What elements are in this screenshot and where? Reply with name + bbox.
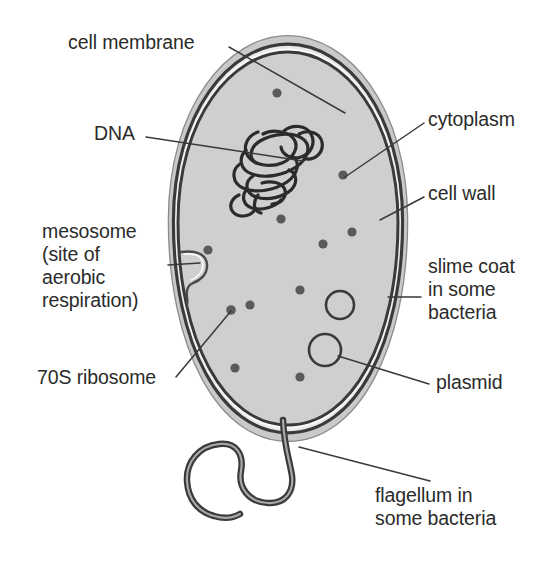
label-slime-coat-line3: bacteria (428, 301, 497, 325)
label-70s-ribosome: 70S ribosome (37, 366, 156, 390)
label-mesosome-line2: (site of (42, 243, 100, 267)
label-mesosome-line1: mesosome (42, 220, 137, 244)
label-flagellum-line2: some bacteria (375, 507, 496, 531)
label-mesosome-line3: aerobic (42, 266, 105, 290)
label-slime-coat-line2: in some (428, 278, 496, 302)
label-plasmid: plasmid (436, 371, 503, 395)
label-dna: DNA (94, 122, 135, 146)
label-mesosome-line4: respiration) (42, 289, 138, 313)
label-cell-membrane: cell membrane (68, 31, 195, 55)
leader-flagellum (299, 447, 430, 481)
bacterial-cell-diagram: cell membrane DNA mesosome (site of aero… (0, 0, 557, 564)
cell-membrane (178, 52, 398, 425)
label-cytoplasm: cytoplasm (428, 108, 515, 132)
label-slime-coat-line1: slime coat (428, 255, 515, 279)
label-flagellum-line1: flagellum in (375, 484, 472, 508)
label-cell-wall: cell wall (428, 182, 495, 206)
